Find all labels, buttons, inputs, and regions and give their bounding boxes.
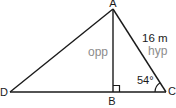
angle-arc xyxy=(155,83,160,92)
vertex-label-d: D xyxy=(0,87,8,98)
hypotenuse-length-label: 16 m xyxy=(142,33,168,45)
triangle-diagram: A D B C opp 16 m hyp 54° xyxy=(0,0,176,108)
vertex-label-c: C xyxy=(168,86,176,97)
hypotenuse-side-label: hyp xyxy=(148,45,167,57)
right-angle-mark xyxy=(113,86,120,93)
vertex-label-a: A xyxy=(109,0,116,9)
opposite-side-label: opp xyxy=(88,46,108,58)
angle-value-label: 54° xyxy=(137,75,154,86)
vertex-label-b: B xyxy=(108,96,115,107)
